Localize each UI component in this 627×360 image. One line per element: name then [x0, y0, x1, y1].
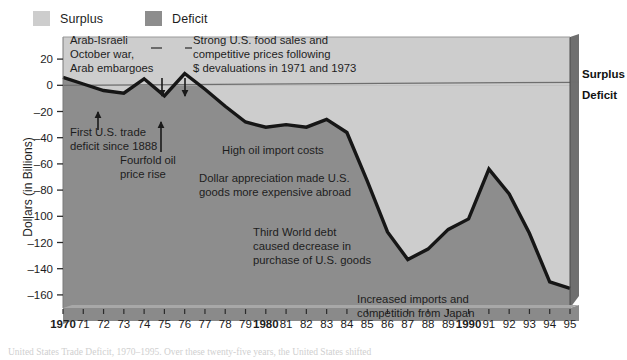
x-axis-tick-label: 82: [300, 318, 313, 330]
annotation-text: competition from Japan: [357, 307, 474, 319]
y-axis-tick-label: 20: [40, 53, 53, 65]
annotation-text: deficit since 1888: [70, 140, 157, 152]
figure-caption: United States Trade Deficit, 1970–1995. …: [8, 347, 620, 358]
x-axis-tick-label: 89: [442, 318, 455, 330]
x-axis-tick-label: 74: [138, 318, 151, 330]
annotation-text: Increased imports and: [357, 293, 469, 305]
x-axis-tick-label: 88: [422, 318, 435, 330]
legend-item-deficit: Deficit: [145, 11, 207, 26]
x-axis-tick-label: 73: [117, 318, 130, 330]
x-axis-tick-label: 92: [503, 318, 516, 330]
x-axis-tick-label: 83: [320, 318, 333, 330]
x-axis-top-face: [63, 305, 579, 308]
x-axis-tick-label: 1970: [50, 318, 76, 330]
y-axis-tick-label: –40: [34, 132, 53, 144]
annotation-text: $ devaluations in 1971 and 1973: [193, 62, 356, 74]
x-axis-tick-label: 81: [280, 318, 293, 330]
chart-legend: Surplus Deficit: [33, 11, 250, 26]
legend-label-surplus: Surplus: [60, 12, 103, 26]
legend-item-surplus: Surplus: [33, 11, 103, 26]
deficit-side-label: Deficit: [582, 89, 617, 101]
chart-area: 200–20–40–60–80–100–120–140–160197071727…: [0, 30, 627, 330]
x-axis-tick-label: 91: [482, 318, 495, 330]
trade-deficit-area-chart: 200–20–40–60–80–100–120–140–160197071727…: [0, 30, 627, 360]
x-axis-tick-label: 76: [178, 318, 191, 330]
x-axis-tick-label: 1990: [456, 318, 482, 330]
y-axis-tick-label: –140: [27, 263, 53, 275]
annotation-text: purchase of U.S. goods: [253, 254, 371, 266]
annotation-text: High oil import costs: [222, 144, 324, 156]
annotation-text: First U.S. trade: [70, 126, 146, 138]
figure-root: Surplus Deficit 200–20–40–60–80–100–120–…: [0, 0, 627, 360]
x-axis-tick-label: 71: [77, 318, 90, 330]
legend-label-deficit: Deficit: [172, 12, 207, 26]
x-axis-tick-label: 84: [341, 318, 354, 330]
annotation-text: Fourfold oil: [120, 154, 176, 166]
x-axis-tick-label: 95: [564, 318, 577, 330]
y-axis-tick-label: 0: [47, 79, 53, 91]
annotation-text: Third World debt: [253, 226, 337, 238]
x-axis-tick-label: 1980: [253, 318, 279, 330]
x-axis-tick-label: 72: [97, 318, 110, 330]
x-axis-tick-label: 86: [381, 318, 394, 330]
x-axis-tick-label: 77: [199, 318, 212, 330]
annotation-text: Arab embargoes: [70, 62, 154, 74]
x-axis-tick-label: 85: [361, 318, 374, 330]
annotation-text: caused decrease in: [253, 240, 351, 252]
annotation-text: Strong U.S. food sales and: [193, 34, 328, 46]
y-axis-title: Dollars (in Billions): [21, 112, 35, 262]
surplus-side-label: Surplus: [582, 68, 625, 80]
x-axis-tick-label: 94: [543, 318, 556, 330]
annotation-text: price rise: [120, 168, 166, 180]
y-axis-tick-label: –20: [34, 106, 53, 118]
annotation-text: Arab-Israeli: [70, 34, 128, 46]
y-axis-tick-label: –80: [34, 184, 53, 196]
annotation-text: Dollar appreciation made U.S.: [199, 172, 350, 184]
annotation-text: October war,: [70, 48, 134, 60]
legend-swatch-deficit: [145, 11, 162, 26]
annotation-high-oil-import: High oil import costs: [222, 144, 324, 156]
x-axis-tick-label: 87: [401, 318, 414, 330]
legend-swatch-surplus: [33, 11, 50, 26]
annotation-text: competitive prices following: [193, 48, 331, 60]
annotation-text: goods more expensive abroad: [199, 186, 351, 198]
chart-right-face: [570, 34, 579, 308]
x-axis-tick-label: 75: [158, 318, 171, 330]
x-axis-tick-label: 78: [219, 318, 232, 330]
x-axis-tick-label: 93: [523, 318, 536, 330]
y-axis-tick-label: –160: [27, 289, 53, 301]
y-axis-tick-label: –60: [34, 158, 53, 170]
x-axis-tick-label: 79: [239, 318, 252, 330]
